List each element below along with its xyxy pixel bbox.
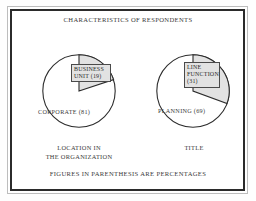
pie-right-remainder-label: PLANNING (69) <box>158 107 205 114</box>
pie-right-caption: TITLE <box>152 144 236 153</box>
pie-left-caption-line1: LOCATION IN <box>20 144 138 153</box>
figure-container: CHARACTERISTICS OF RESPONDENTS BUSINESS … <box>0 0 256 201</box>
pie-left-slice-label-line1: BUSINESS <box>74 66 109 73</box>
pie-right-slice-label-line1: LINE <box>187 64 218 71</box>
pie-left-caption: LOCATION IN THE ORGANIZATION <box>20 144 138 161</box>
pie-right-slice-label: LINE FUNCTION (31) <box>184 62 220 88</box>
pie-left-slice-label-line2: UNIT (19) <box>74 73 109 80</box>
pie-left-caption-line2: THE ORGANIZATION <box>20 153 138 162</box>
pie-right-slice-label-line2: FUNCTION <box>187 71 218 78</box>
pie-left-slice-label: BUSINESS UNIT (19) <box>71 64 111 82</box>
figure-title: CHARACTERISTICS OF RESPONDENTS <box>0 16 256 23</box>
pie-right-slice-label-line3: (31) <box>187 78 218 85</box>
figure-footnote: FIGURES IN PARENTHESIS ARE PERCENTAGES <box>0 170 256 177</box>
pie-right-caption-line1: TITLE <box>152 144 236 153</box>
pie-left-remainder-label: CORPORATE (81) <box>38 108 90 115</box>
